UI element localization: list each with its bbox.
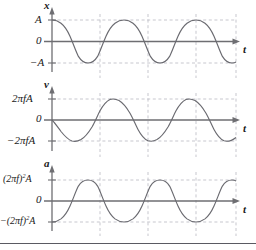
y-axis-arrow-velocity: [49, 86, 54, 94]
axis-label-a: a: [44, 158, 50, 169]
ytick-bottom-post: A: [29, 215, 35, 226]
ytick-label-zero-velocity: 0: [36, 113, 42, 124]
ytick-label-top-position: A: [35, 14, 42, 25]
axis-label-t-velocity: t: [243, 123, 246, 134]
y-axis-arrow-position: [49, 7, 54, 15]
ytick-label-zero-position: 0: [36, 35, 42, 46]
gridlines-position: [52, 14, 236, 78]
gridlines-velocity: [52, 93, 236, 157]
axis-label-v: v: [44, 79, 49, 90]
y-axis-arrow-acceleration: [49, 165, 54, 173]
ytick-top-post: A: [26, 173, 32, 184]
ytick-label-top-acceleration: (2πf)2A: [3, 173, 32, 184]
x-axis-arrow-acceleration: [233, 198, 241, 204]
ytick-bottom-pre: −(2πf): [0, 215, 26, 226]
ytick-label-bottom-position: −A: [30, 57, 44, 68]
panel-velocity: [44, 86, 240, 157]
panel-acceleration: [44, 165, 240, 236]
ytick-top-pre: (2πf): [3, 173, 22, 184]
ytick-label-top-velocity: 2πfA: [12, 93, 33, 104]
axis-label-t-acceleration: t: [243, 204, 246, 215]
ytick-label-bottom-velocity: −2πfA: [7, 135, 35, 146]
ytick-label-bottom-acceleration: −(2πf)2A: [0, 215, 35, 226]
gridlines-acceleration: [52, 172, 236, 236]
bottom-divider: [0, 243, 256, 244]
axis-label-x: x: [44, 0, 50, 11]
panel-position: [44, 7, 240, 78]
ytick-label-zero-acceleration: 0: [36, 194, 42, 205]
axis-label-t-position: t: [243, 44, 246, 55]
